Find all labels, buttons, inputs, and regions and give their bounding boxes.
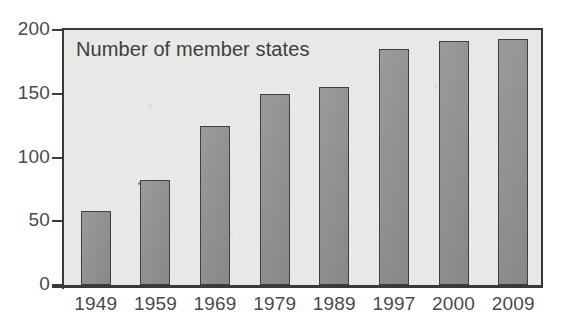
x-tick-label-1979: 1979 (245, 293, 305, 315)
x-tick-label-1997: 1997 (364, 293, 424, 315)
bar-1959 (140, 180, 170, 285)
y-tick-50 (52, 220, 62, 222)
y-tick-label-200: 200 (4, 18, 50, 40)
y-tick-label-150: 150 (4, 82, 50, 104)
bar-series (64, 30, 541, 285)
y-axis-labels: 050100150200 (0, 0, 50, 331)
x-tick-label-2000: 2000 (424, 293, 484, 315)
bar-2000 (439, 41, 469, 285)
y-tick-label-100: 100 (4, 146, 50, 168)
x-tick-label-1959: 1959 (126, 293, 186, 315)
bar-1969 (200, 126, 230, 285)
bar-1989 (319, 87, 349, 285)
y-tick-0 (52, 284, 62, 286)
y-tick-label-0: 0 (4, 273, 50, 295)
y-tick-label-50: 50 (4, 209, 50, 231)
bar-2009 (498, 39, 528, 285)
x-axis-line (52, 286, 543, 288)
x-tick-label-1989: 1989 (305, 293, 365, 315)
bar-1979 (260, 94, 290, 285)
x-tick-label-1949: 1949 (66, 293, 126, 315)
x-tick-label-2009: 2009 (483, 293, 543, 315)
y-tick-200 (52, 29, 62, 31)
bar-1949 (81, 211, 111, 285)
bar-1997 (379, 49, 409, 285)
y-tick-150 (52, 93, 62, 95)
x-axis-labels: 19491959196919791989199720002009 (64, 293, 541, 323)
y-tick-100 (52, 157, 62, 159)
y-axis-line (62, 28, 64, 289)
x-tick-label-1969: 1969 (185, 293, 245, 315)
bar-chart-figure: Number of member states 050100150200 194… (0, 0, 567, 331)
